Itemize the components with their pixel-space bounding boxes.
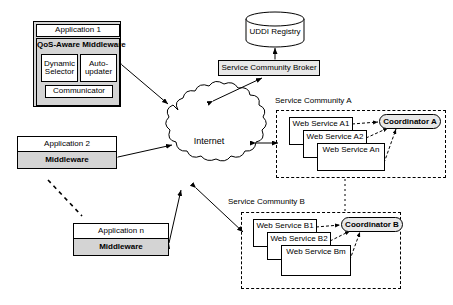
web-service-b1-label: Web Service B1	[256, 222, 313, 230]
auto-updater-box: Auto- updater	[80, 54, 117, 82]
service-community-broker: Service Community Broker	[218, 60, 320, 76]
application-n-title-text: Application n	[98, 227, 144, 235]
service-community-b-label: Service Community B	[228, 197, 305, 206]
application-2-container: Application 2 Middleware	[17, 136, 117, 169]
connector-app2-appn-dashed	[48, 180, 82, 216]
web-service-bm-label: Web Service Bm	[286, 248, 345, 256]
diagram-canvas: Application 1 QoS-Aware Middleware Dynam…	[0, 0, 453, 305]
coordinator-b: Coordinator B	[341, 217, 403, 232]
uddi-registry-label: UDDI Registry	[246, 27, 304, 36]
application-n-middleware-text: Middleware	[99, 243, 143, 251]
application-1-title-text: Application 1	[55, 26, 101, 34]
application-2-middleware-text: Middleware	[45, 156, 89, 164]
application-n-container: Application n Middleware	[73, 223, 169, 256]
application-1-title: Application 1	[36, 24, 120, 37]
communicator-box: Communicator	[45, 85, 113, 98]
application-2-middleware: Middleware	[17, 151, 117, 169]
web-service-bm: Web Service Bm	[281, 245, 351, 276]
application-2-title-text: Application 2	[44, 140, 90, 148]
application-n-title: Application n	[73, 223, 169, 239]
internet-label: Internet	[181, 136, 237, 146]
qos-aware-middleware-title: QoS-Aware Middleware	[37, 41, 119, 49]
coordinator-a: Coordinator A	[379, 114, 441, 129]
connector-app2-internet	[118, 145, 172, 157]
coordinator-b-label: Coordinator B	[345, 220, 399, 229]
internet-cloud-shape	[166, 81, 267, 160]
qos-aware-middleware-container: QoS-Aware Middleware Dynamic Selector Au…	[36, 38, 120, 106]
coordinator-a-label: Coordinator A	[383, 117, 436, 126]
application-n-middleware: Middleware	[73, 238, 169, 256]
application-1-container: Application 1 QoS-Aware Middleware Dynam…	[33, 21, 121, 107]
service-community-broker-label: Service Community Broker	[221, 64, 316, 72]
connector-internet-communityB	[196, 188, 243, 232]
web-service-an-label: Web Service An	[323, 146, 380, 154]
dynamic-selector-box: Dynamic Selector	[41, 54, 78, 82]
auto-updater-label-2: updater	[85, 68, 112, 76]
dynamic-selector-label-2: Selector	[45, 68, 74, 76]
application-2-title: Application 2	[17, 136, 117, 152]
connector-appn-internet	[169, 190, 181, 243]
web-service-b2-label: Web Service B2	[270, 235, 327, 243]
connector-app1-internet	[122, 65, 168, 104]
web-service-a2-label: Web Service A2	[307, 133, 364, 141]
service-community-a-label: Service Community A	[275, 96, 351, 105]
communicator-label: Communicator	[53, 87, 105, 95]
web-service-a1-label: Web Service A1	[293, 120, 350, 128]
web-service-an: Web Service An	[317, 143, 385, 171]
